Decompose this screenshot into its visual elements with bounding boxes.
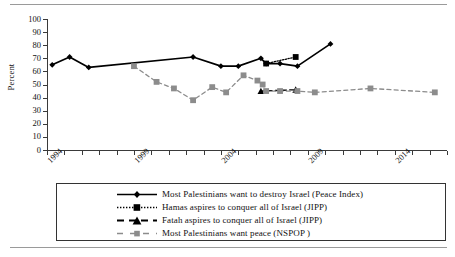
data-point-marker <box>171 86 177 92</box>
legend-item-hamas-jipp: Hamas aspires to conquer all of Israel (… <box>57 200 445 213</box>
data-point-marker <box>223 89 229 95</box>
data-point-marker <box>277 88 283 94</box>
legend-swatch-gray-dashed-square <box>115 226 159 239</box>
data-point-marker <box>293 54 299 60</box>
data-point-marker <box>235 63 241 69</box>
legend-label: Most Palestinians want to destroy Israel… <box>159 189 363 199</box>
data-point-marker <box>263 88 269 94</box>
legend-label: Hamas aspires to conquer all of Israel (… <box>159 202 327 212</box>
chart-legend: Most Palestinians want to destroy Israel… <box>56 183 446 241</box>
legend-swatch-solid-diamond <box>115 187 159 200</box>
legend-label: Fatah aspires to conquer all of Israel (… <box>159 215 322 225</box>
legend-swatch-dashed-triangle <box>115 213 159 226</box>
series-peace-index <box>49 41 333 70</box>
data-point-marker <box>260 82 266 88</box>
data-point-marker <box>295 88 301 94</box>
legend-item-fatah-jipp: Fatah aspires to conquer all of Israel (… <box>57 213 445 226</box>
figure-page: Percent 1009080706050403020100 199419992… <box>0 0 455 257</box>
legend-swatch-dotted-square <box>115 200 159 213</box>
data-point-marker <box>131 63 137 69</box>
data-point-marker <box>263 61 269 67</box>
data-point-marker <box>255 78 261 84</box>
data-point-marker <box>190 97 196 103</box>
series-line <box>52 44 330 68</box>
data-point-marker <box>190 54 196 60</box>
legend-item-nspop: Most Palestinians want peace (NSPOP ) <box>57 226 445 239</box>
data-point-marker <box>209 84 215 90</box>
data-point-marker <box>154 79 160 85</box>
data-point-marker <box>368 86 374 92</box>
legend-item-peace-index: Most Palestinians want to destroy Israel… <box>57 187 445 200</box>
data-point-marker <box>218 63 224 69</box>
data-point-marker <box>312 89 318 95</box>
data-point-marker <box>49 62 55 68</box>
data-point-marker <box>241 72 247 78</box>
series-nspop <box>131 63 438 103</box>
legend-label: Most Palestinians want peace (NSPOP ) <box>159 228 310 238</box>
data-point-marker <box>432 89 438 95</box>
series-line <box>134 66 435 100</box>
